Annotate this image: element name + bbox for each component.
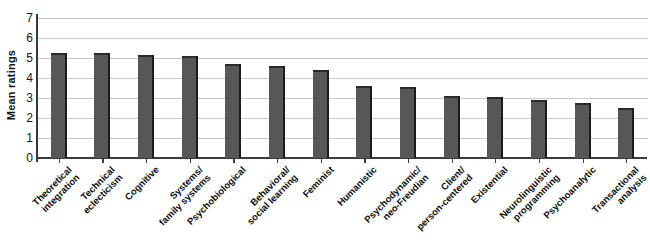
x-tick-mark xyxy=(102,159,103,163)
x-tick-mark xyxy=(539,159,540,163)
y-tick-label: 2 xyxy=(3,111,33,125)
x-tick-mark xyxy=(583,159,584,163)
x-tick-mark xyxy=(59,159,60,163)
x-tick-mark xyxy=(626,159,627,163)
x-category-label: Technicaleclecticism xyxy=(73,164,125,216)
x-tick-mark xyxy=(495,159,496,163)
x-category-label: Theoreticalintegration xyxy=(30,164,81,215)
x-category-label: Feminist xyxy=(300,164,335,199)
x-category-label-line1: Existential xyxy=(469,164,510,205)
gridlines xyxy=(37,18,648,158)
y-axis-line xyxy=(36,14,38,162)
gridline xyxy=(37,98,648,99)
x-category-label: Cognitive xyxy=(122,164,160,202)
x-axis-category-labels: TheoreticalintegrationTechnicaleclectici… xyxy=(37,160,648,244)
y-tick-label: 6 xyxy=(3,31,33,45)
y-tick-label: 0 xyxy=(3,151,33,165)
gridline xyxy=(37,38,648,39)
x-axis-line xyxy=(36,157,647,159)
x-tick-mark xyxy=(233,159,234,163)
y-tick-label: 5 xyxy=(3,51,33,65)
x-tick-mark xyxy=(146,159,147,163)
y-axis-tick-labels: 01234567 xyxy=(0,18,33,158)
bar-chart: Mean ratings 01234567 Theoreticalintegra… xyxy=(0,0,650,244)
x-category-label-line1: Feminist xyxy=(300,164,335,199)
x-category-label: Behavioral/social learning xyxy=(237,164,300,227)
gridline xyxy=(37,78,648,79)
x-tick-mark xyxy=(277,159,278,163)
x-category-label: Existential xyxy=(469,164,510,205)
x-category-label: Transactionalanalysis xyxy=(590,164,649,223)
gridline xyxy=(37,118,648,119)
x-tick-mark xyxy=(190,159,191,163)
x-category-label-line1: Humanistic xyxy=(335,164,379,208)
x-tick-mark xyxy=(321,159,322,163)
plot-area xyxy=(37,18,648,158)
x-category-label-line1: Cognitive xyxy=(122,164,160,202)
x-tick-mark xyxy=(364,159,365,163)
gridline xyxy=(37,138,648,139)
gridline xyxy=(37,58,648,59)
y-tick-label: 1 xyxy=(3,131,33,145)
y-tick-label: 4 xyxy=(3,71,33,85)
gridline xyxy=(37,18,648,19)
x-tick-mark xyxy=(408,159,409,163)
y-tick-label: 3 xyxy=(3,91,33,105)
y-tick-label: 7 xyxy=(3,11,33,25)
x-category-label: Humanistic xyxy=(335,164,379,208)
x-tick-mark xyxy=(452,159,453,163)
